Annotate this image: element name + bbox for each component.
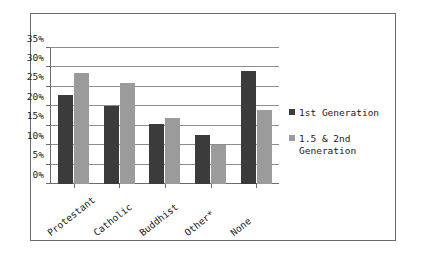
legend-item-1[interactable]: 1st Generation [289, 107, 394, 119]
x-axis-label-other: Other* [183, 209, 216, 238]
bar-group [51, 48, 97, 184]
bar-buddhist-series1[interactable] [149, 124, 164, 184]
x-axis-label-buddhist: Buddhist [137, 202, 179, 238]
legend-item-label: 1.5 & 2nd Generation [299, 133, 356, 157]
dark-square-marker-icon [289, 109, 295, 115]
legend-item-2[interactable]: 1.5 & 2nd Generation [289, 133, 394, 157]
bar-group [233, 48, 279, 184]
bar-catholic-series2[interactable] [120, 83, 135, 184]
bar-group [97, 48, 143, 184]
y-axis-tick [46, 164, 50, 165]
bar-other-series2[interactable] [211, 145, 226, 184]
bar-catholic-series1[interactable] [104, 106, 119, 184]
light-square-marker-icon [289, 135, 295, 141]
y-axis-tick [46, 105, 50, 106]
y-axis-tick-label: 10% [27, 131, 44, 141]
y-axis-tick-label: 15% [27, 111, 44, 121]
y-axis-tick-label: 25% [27, 72, 44, 82]
y-axis-tick-label: 5% [33, 150, 44, 160]
y-axis-tick [46, 86, 50, 87]
bar-protestant-series2[interactable] [74, 73, 89, 184]
y-axis-tick [46, 183, 50, 184]
x-axis-label-none: None [229, 216, 253, 238]
bar-group [142, 48, 188, 184]
plot-area: 0%5%10%15%20%25%30%35% [50, 48, 279, 184]
y-axis-tick-label: 0% [33, 170, 44, 180]
chart-frame: 0%5%10%15%20%25%30%35% ProtestantCatholi… [30, 13, 396, 241]
y-axis-tick-label: 20% [27, 92, 44, 102]
legend-item-label: 1st Generation [299, 107, 379, 119]
bar-none-series2[interactable] [257, 110, 272, 184]
bar-other-series1[interactable] [195, 135, 210, 184]
y-axis-tick-label: 35% [27, 34, 44, 44]
bars-layer [51, 48, 279, 184]
y-axis-tick [46, 66, 50, 67]
x-axis-label-protestant: Protestant [46, 195, 97, 238]
bar-protestant-series1[interactable] [58, 95, 73, 184]
y-axis-tick [46, 47, 50, 48]
bar-buddhist-series2[interactable] [165, 118, 180, 184]
bar-none-series1[interactable] [241, 71, 256, 184]
y-axis-tick-label: 30% [27, 53, 44, 63]
y-axis-tick [46, 125, 50, 126]
y-axis-tick [46, 144, 50, 145]
x-axis-labels: ProtestantCatholicBuddhistOther*None [50, 186, 279, 238]
bar-group [188, 48, 234, 184]
x-axis-label-catholic: Catholic [92, 202, 134, 238]
chart-legend: 1st Generation1.5 & 2nd Generation [289, 107, 394, 171]
